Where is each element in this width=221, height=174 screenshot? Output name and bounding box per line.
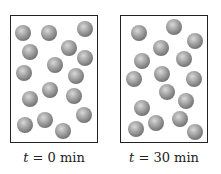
molecule-sphere	[42, 82, 58, 98]
molecule-sphere	[66, 88, 82, 104]
molecule-sphere	[126, 71, 142, 87]
molecule-sphere	[55, 123, 71, 139]
molecule-sphere	[16, 65, 32, 81]
molecule-sphere	[47, 57, 63, 73]
molecule-sphere	[37, 112, 53, 128]
molecule-sphere	[41, 25, 57, 41]
molecule-sphere	[176, 51, 192, 67]
molecule-sphere	[77, 50, 93, 66]
molecule-sphere	[178, 93, 194, 109]
molecule-sphere	[128, 121, 144, 137]
molecule-sphere	[134, 100, 150, 116]
molecule-sphere	[159, 84, 175, 100]
molecule-sphere	[61, 40, 77, 56]
molecule-sphere	[22, 91, 38, 107]
time-label-t0: t = 0 min	[4, 150, 104, 165]
molecule-sphere	[131, 25, 147, 41]
molecule-sphere	[22, 44, 38, 60]
molecule-sphere	[172, 111, 188, 127]
molecule-sphere	[134, 53, 150, 69]
time-value: = 0 min	[28, 150, 84, 165]
molecule-sphere	[15, 25, 31, 41]
molecule-sphere	[153, 40, 169, 56]
molecule-sphere	[17, 117, 33, 133]
molecule-sphere	[187, 124, 203, 140]
time-value: = 30 min	[134, 150, 199, 165]
molecule-sphere	[186, 71, 202, 87]
molecule-sphere	[76, 107, 92, 123]
time-label-t30: t = 30 min	[114, 150, 214, 165]
molecule-sphere	[154, 66, 170, 82]
molecule-sphere	[148, 115, 164, 131]
molecule-sphere	[68, 68, 84, 84]
molecule-sphere	[77, 21, 93, 37]
molecule-sphere	[187, 33, 203, 49]
molecule-sphere	[166, 19, 182, 35]
